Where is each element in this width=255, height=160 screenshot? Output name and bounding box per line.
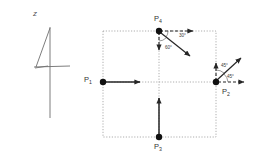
angle-label-60: 60° [165,46,172,51]
node-p1 [100,79,106,85]
angle-label-45-lower: 45° [227,75,234,80]
point-label-p4-sub: 4 [159,18,162,24]
point-label-p1-sub: 1 [89,79,92,85]
point-label-p2: P2 [222,88,230,96]
node-p3 [156,134,162,140]
point-label-p1: P1 [84,76,92,84]
point-label-p3-sub: 3 [159,146,162,152]
z-axis-label: z [33,10,37,18]
four-stroke-horizontal [34,66,70,67]
point-label-p4: P4 [154,15,162,23]
point-label-p3: P3 [154,143,162,151]
angle-label-30: 30° [179,34,186,39]
four-stroke-diagonal [36,28,50,67]
force-diagram-svg [0,0,255,160]
node-p2 [213,79,219,85]
handwritten-four-sketch [34,27,70,118]
node-p4 [156,28,162,34]
angle-arc-45-upper [216,70,224,73]
point-label-p2-sub: 2 [227,91,230,97]
angle-arc-30 [166,31,168,37]
figure-canvas: z P1 P2 P3 P4 30° 60° 45° 45° [0,0,255,160]
angle-label-45-upper: 45° [221,64,228,69]
angle-arc-60 [159,38,166,41]
